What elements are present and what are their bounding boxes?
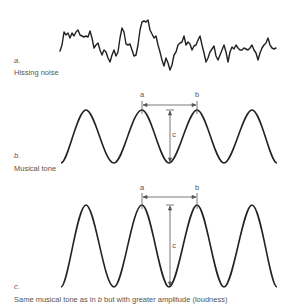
caption-pre: Same musical tone as in	[14, 295, 98, 304]
marker-a-b: a	[140, 91, 144, 99]
caption-post: but with greater amplitude (loudness)	[102, 295, 227, 304]
panel-b-caption: Musical tone	[14, 165, 56, 173]
panel-b-letter: b.	[14, 152, 20, 160]
tone-waveform-c	[61, 205, 277, 287]
marker-a-c: a	[140, 184, 144, 192]
marker-c-c: c	[172, 242, 176, 250]
sound-waveforms-diagram	[0, 0, 291, 308]
panel-a-letter: a.	[14, 57, 20, 65]
panel-a-caption: Hissing noise	[14, 69, 59, 77]
marker-b-b: b	[195, 91, 199, 99]
noise-waveform	[60, 20, 276, 70]
marker-b-c: b	[195, 184, 199, 192]
panel-c-caption: Same musical tone as in b but with great…	[14, 296, 227, 304]
marker-c-b: c	[172, 131, 176, 139]
tone-waveform-b	[61, 110, 277, 163]
panel-c-letter: c.	[14, 283, 20, 291]
